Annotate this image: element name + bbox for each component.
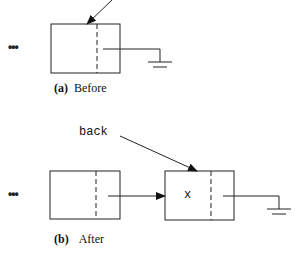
back-pointer-arrow <box>120 136 197 171</box>
back-pointer-label: back <box>79 125 108 139</box>
null-pointer-line <box>223 196 279 209</box>
caption-before: (a)Before <box>54 81 107 96</box>
caption-after: (b)After <box>54 232 104 247</box>
new-node-value: x <box>184 188 191 202</box>
before-diagram <box>51 0 172 73</box>
null-pointer-line <box>103 49 160 62</box>
caption-tag: (b) <box>54 232 69 246</box>
ground-null-icon <box>267 209 291 214</box>
old-node-box <box>50 171 120 219</box>
ellipsis-after: ••• <box>8 187 18 201</box>
ground-null-icon <box>148 62 172 67</box>
ellipsis-before: ••• <box>8 40 18 54</box>
caption-text: After <box>79 232 104 246</box>
incoming-pointer-arrow <box>87 0 112 24</box>
after-diagram <box>50 136 291 220</box>
caption-text: Before <box>74 81 107 95</box>
linked-list-diagram <box>0 0 303 259</box>
caption-tag: (a) <box>54 81 68 95</box>
